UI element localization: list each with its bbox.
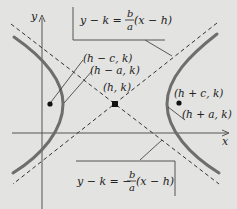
- point-labels: (h − c, k) (h − a, k) (h, k) (h + c, k) …: [83, 52, 232, 120]
- label-right-focus: (h + c, k): [174, 87, 223, 99]
- leader-top-equation: [145, 40, 172, 56]
- bottom-eq-lhs: y − k = −: [76, 175, 132, 188]
- right-focus-dot: [176, 100, 181, 105]
- hyperbola-diagram: y x (h − c, k) (h: [0, 0, 237, 209]
- right-branch: [167, 34, 219, 173]
- bottom-eq-rhs: (x − h): [136, 175, 174, 188]
- left-focus-dot: [47, 101, 52, 106]
- bottom-eq-denominator: a: [129, 182, 135, 193]
- left-branch: [13, 37, 63, 173]
- y-axis-label: y: [30, 10, 38, 23]
- diagram-canvas: y x (h − c, k) (h: [0, 0, 237, 209]
- label-right-vertex: (h + a, k): [182, 108, 232, 120]
- bottom-asymptote-equation: y − k = − b a (x − h): [76, 161, 175, 196]
- leader-bottom-equation: [140, 140, 162, 160]
- top-asymptote-equation: y − k = b a (x − h): [73, 7, 172, 40]
- top-eq-lhs: y − k =: [79, 14, 122, 27]
- label-left-focus: (h − c, k): [83, 52, 132, 64]
- top-eq-denominator: a: [127, 21, 133, 32]
- top-eq-numerator: b: [127, 8, 133, 19]
- label-left-vertex: (h − a, k): [90, 64, 140, 76]
- bottom-eq-numerator: b: [129, 169, 135, 180]
- key-points: [47, 100, 181, 107]
- center-dot: [112, 101, 118, 107]
- x-axis-label: x: [222, 135, 229, 148]
- label-center: (h, k): [103, 81, 131, 93]
- top-eq-rhs: (x − h): [134, 14, 172, 27]
